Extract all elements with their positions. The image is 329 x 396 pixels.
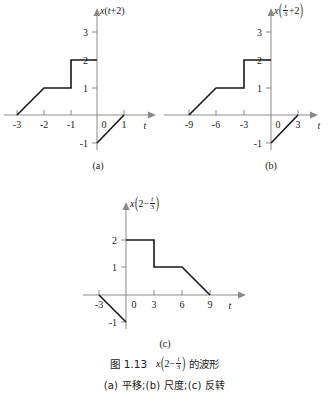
x-tick-label-b-1: -6	[212, 119, 220, 130]
signal-label-c: x(2−t3)	[130, 196, 160, 212]
caption-suffix: 的波形	[189, 356, 219, 371]
x-tick-label-b-3: 0	[276, 119, 281, 130]
x-tick-label-a-4: 1	[122, 119, 127, 130]
panel-a-sublabel: (a)	[78, 160, 118, 171]
x-tick-label-c-0: -3	[95, 299, 103, 310]
panel-c-sublabel: (c)	[145, 338, 185, 349]
signal-label-b: x(t3+2)	[274, 3, 304, 19]
y-tick-label-b-2: 1	[257, 83, 262, 94]
panel-b-sublabel: (b)	[251, 160, 291, 171]
x-tick-label-a-0: -3	[13, 119, 21, 130]
panel-a: -3 -2 -1 0 1 3 2 1 -1 t x(t+2)	[0, 2, 160, 154]
signal-label-a: x(t+2)	[100, 5, 125, 16]
x-tick-label-c-3: 6	[180, 299, 185, 310]
caption-line-2: (a) 平移;(b) 尺度;(c) 反转	[0, 377, 329, 392]
y-tick-label-a-0: 3	[83, 27, 88, 38]
y-tick-label-c-1: 1	[112, 262, 117, 273]
x-axis-var-c: t	[229, 300, 232, 311]
y-tick-label-a-3: -1	[80, 138, 88, 149]
figure-caption: 图 1.13 x(2−t3) 的波形	[0, 356, 329, 372]
x-axis-arrow-b	[310, 112, 318, 119]
caption-formula: x(2−t3)	[156, 356, 186, 372]
y-tick-label-b-0: 3	[257, 27, 262, 38]
panel-a-plot: -3 -2 -1 0 1 3 2 1 -1 t	[0, 2, 160, 154]
x-axis-var-b: t	[318, 120, 321, 131]
x-tick-label-b-4: 3	[296, 119, 301, 130]
panel-c-plot: -3 0 3 6 9 2 1 -1 t	[75, 188, 275, 338]
panel-b-plot: -9 -6 -3 0 3 3 2 1 -1 t	[160, 2, 329, 154]
x-axis-arrow-a	[148, 112, 156, 119]
panel-b: -9 -6 -3 0 3 3 2 1 -1 t x(t3+2)	[160, 2, 329, 154]
figure-container: -3 -2 -1 0 1 3 2 1 -1 t x(t+2) (a)	[0, 0, 329, 396]
y-tick-label-c-2: -1	[109, 317, 117, 328]
y-tick-label-a-2: 1	[83, 83, 88, 94]
y-tick-label-b-3: -1	[254, 138, 262, 149]
x-tick-label-c-2: 3	[152, 299, 157, 310]
caption-number: 图 1.13	[110, 356, 147, 371]
x-tick-label-a-2: -1	[67, 119, 75, 130]
y-axis-arrow-c	[123, 202, 130, 210]
waveform-c-main	[126, 240, 210, 295]
panel-c: -3 0 3 6 9 2 1 -1 t x(2−t3)	[75, 188, 275, 338]
x-tick-label-c-4: 9	[208, 299, 213, 310]
x-tick-label-c-1: 0	[132, 299, 137, 310]
x-tick-label-a-3: 0	[102, 119, 107, 130]
x-tick-label-b-0: -9	[185, 119, 193, 130]
x-tick-label-a-1: -2	[40, 119, 48, 130]
caption-line-1: 图 1.13 x(2−t3) 的波形	[0, 356, 329, 372]
x-axis-arrow-c	[238, 292, 246, 299]
y-tick-label-c-0: 2	[112, 235, 117, 246]
x-axis-var-a: t	[144, 120, 147, 131]
x-tick-label-b-2: -3	[240, 119, 248, 130]
